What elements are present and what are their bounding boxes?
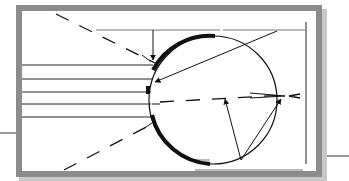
pupil-block: [146, 86, 150, 94]
eye-optics-diagram: [0, 0, 349, 181]
